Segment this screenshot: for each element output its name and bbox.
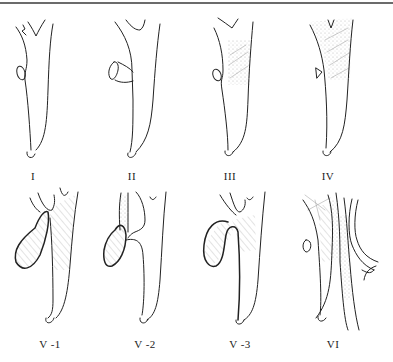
panel-type-VI [303,193,378,330]
panel-type-V-3 [204,192,265,324]
panel-type-III [211,18,253,156]
label-type-V-3: V -3 [229,338,251,350]
label-type-V-2: V -2 [134,338,156,350]
panel-type-V-2 [104,192,166,323]
label-type-IV: IV [322,170,335,182]
label-type-VI: VI [327,338,340,350]
panel-type-IV [310,18,353,156]
panel-type-II [109,20,160,158]
label-type-V-1: V -1 [39,338,61,350]
label-type-II: II [128,170,136,182]
panel-type-I [15,20,53,158]
label-type-I: I [31,170,35,182]
label-type-III: III [224,170,237,182]
panel-type-V-1 [15,188,78,323]
